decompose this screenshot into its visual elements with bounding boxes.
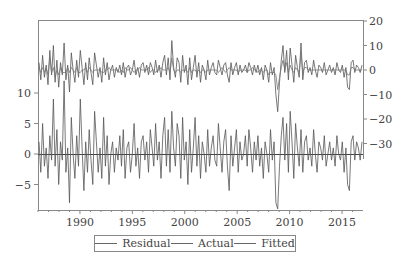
right-tick-label: 10 (369, 40, 383, 53)
series-line-fitted (39, 53, 362, 90)
legend-label-fitted: Fitted (261, 237, 295, 250)
legend-item-residual: Residual (95, 237, 170, 250)
legend: Residual Actual Fitted (94, 235, 296, 252)
series-lines (39, 41, 362, 209)
right-tick-label: −30 (369, 138, 392, 151)
residual-actual-fitted-chart: −50510 −30−20−1001020 199019952000200520… (0, 0, 403, 266)
left-tick-label: 5 (24, 118, 31, 131)
right-axis: −30−20−1001020 (363, 15, 392, 151)
series-line-residual (39, 81, 362, 209)
legend-label-residual: Residual (122, 237, 170, 250)
right-tick-label: −20 (369, 113, 392, 126)
legend-swatch-residual (95, 243, 117, 244)
legend-label-actual: Actual (198, 237, 234, 250)
right-tick-label: 20 (369, 15, 383, 28)
x-tick-label: 2000 (171, 216, 199, 229)
x-tick-label: 1995 (118, 216, 146, 229)
left-axis: −50510 (15, 87, 38, 192)
legend-item-actual: Actual (171, 237, 234, 250)
left-tick-label: 10 (17, 87, 31, 100)
legend-swatch-fitted (234, 243, 256, 244)
plot-frame (38, 20, 364, 211)
x-tick-label: 1990 (66, 216, 94, 229)
right-tick-label: −10 (369, 89, 392, 102)
x-tick-label: 2005 (223, 216, 251, 229)
series-line-actual (39, 41, 362, 112)
x-axis: 199019952000200520102015 (38, 210, 356, 229)
legend-swatch-actual (171, 243, 193, 244)
right-tick-label: 0 (369, 64, 376, 77)
left-tick-label: 0 (24, 148, 31, 161)
left-tick-label: −5 (15, 179, 31, 192)
x-tick-label: 2010 (276, 216, 304, 229)
legend-item-fitted: Fitted (234, 237, 295, 250)
x-tick-label: 2015 (328, 216, 356, 229)
